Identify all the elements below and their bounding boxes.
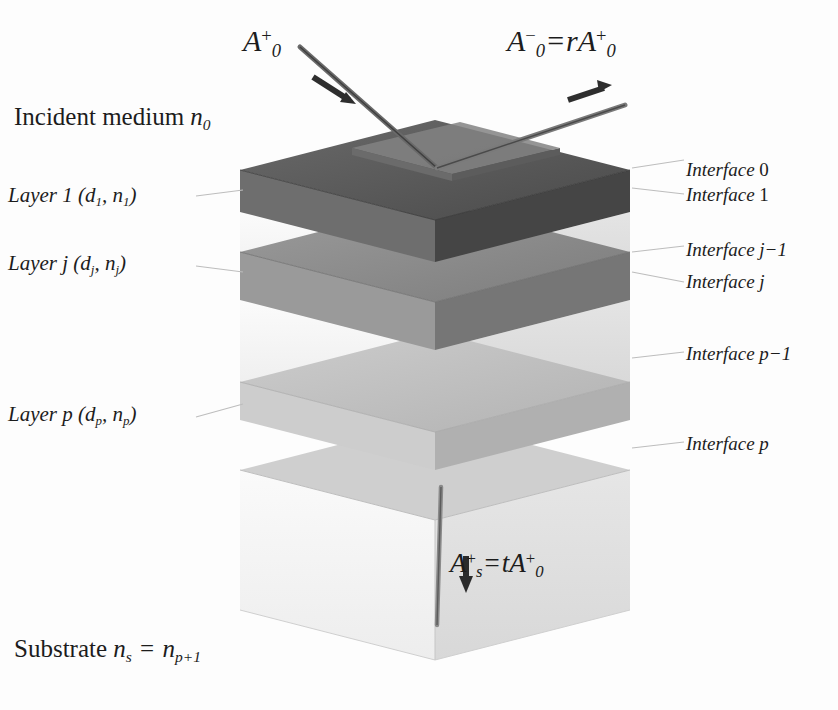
transmitted-rhs-sup: + bbox=[526, 549, 535, 568]
leader-layer-1 bbox=[196, 190, 243, 196]
interface-1-index: 1 bbox=[759, 184, 769, 205]
layer-p-refractive-sub: p bbox=[123, 413, 130, 428]
interface-j-index: j bbox=[759, 271, 764, 292]
interface-p-1-index: p−1 bbox=[759, 343, 791, 364]
layer-j-thickness-sub: j bbox=[91, 262, 95, 277]
leader-interface-j bbox=[632, 272, 684, 282]
reflected-rhs-symbol: A bbox=[578, 24, 596, 57]
transmitted-amplitude-label: A+s=tA+0 bbox=[450, 550, 544, 581]
leader-layer-p bbox=[196, 404, 243, 417]
leader-interface-p bbox=[632, 442, 684, 448]
interface-j-1-label: Interface j−1 bbox=[686, 240, 787, 259]
leader-interface-0 bbox=[632, 160, 684, 168]
incident-amplitude-label: A+0 bbox=[243, 26, 281, 61]
layer-j-refractive-sub: j bbox=[115, 262, 119, 277]
interface-p-label: Interface p bbox=[686, 434, 769, 453]
substrate-equals: = bbox=[138, 635, 156, 662]
leader-layer-j bbox=[196, 266, 243, 272]
figure-canvas: Incident medium n0 Substrate ns = np+1 L… bbox=[0, 0, 838, 710]
interface-p-word: Interface bbox=[686, 433, 755, 454]
layer-j-label: Layer j (dj, nj) bbox=[8, 253, 126, 276]
reflected-direction-arrow-icon bbox=[568, 80, 612, 100]
layer-1-refractive-sub: 1 bbox=[123, 194, 130, 209]
layer-1-thickness-sub: 1 bbox=[96, 194, 103, 209]
layer-p-index: p bbox=[62, 402, 73, 426]
reflected-rhs-sup: + bbox=[596, 25, 607, 46]
substrate-symbol-2: n bbox=[162, 635, 175, 662]
interface-1-label: Interface 1 bbox=[686, 185, 769, 204]
incident-medium-text: Incident medium bbox=[14, 103, 184, 130]
incident-amplitude-sub: 0 bbox=[272, 40, 281, 61]
layer-1-name: Layer bbox=[8, 183, 57, 207]
leader-interface-p-1 bbox=[632, 352, 684, 358]
interface-j-word: Interface bbox=[686, 271, 755, 292]
layer-p-name: Layer bbox=[8, 402, 57, 426]
incident-index-symbol: n bbox=[190, 103, 203, 130]
incident-amplitude-sup: + bbox=[261, 25, 272, 46]
interface-p-index: p bbox=[759, 433, 769, 454]
layer-1-label: Layer 1 (d1, n1) bbox=[8, 185, 137, 208]
layer-p-refractive: n bbox=[113, 402, 124, 426]
reflected-amplitude-symbol: A bbox=[507, 24, 525, 57]
reflected-rhs-sub: 0 bbox=[607, 40, 616, 61]
reflected-amplitude-label: A−0=rA+0 bbox=[507, 26, 616, 61]
layer-1-refractive: n bbox=[113, 183, 124, 207]
layer-j-name: Layer bbox=[8, 251, 57, 275]
incident-medium-label: Incident medium n0 bbox=[14, 104, 211, 132]
layer-1-thickness: d bbox=[85, 183, 96, 207]
substrate-sub-2: p+1 bbox=[175, 648, 201, 665]
transmitted-rhs-sub: 0 bbox=[535, 562, 543, 581]
interface-p-1-word: Interface bbox=[686, 343, 755, 364]
reflected-equals: = bbox=[545, 24, 566, 57]
reflected-amplitude-sub: 0 bbox=[536, 40, 545, 61]
layer-j-index: j bbox=[62, 251, 68, 275]
substrate-symbol: n bbox=[113, 635, 126, 662]
interface-j-label: Interface j bbox=[686, 272, 765, 291]
layer-j-refractive: n bbox=[105, 251, 116, 275]
layer-p-thickness: d bbox=[85, 402, 96, 426]
layer-p-label: Layer p (dp, np) bbox=[8, 404, 137, 427]
interface-j-1-word: Interface bbox=[686, 239, 755, 260]
interface-j-1-index: j−1 bbox=[759, 239, 787, 260]
layer-1-index: 1 bbox=[62, 183, 73, 207]
interface-0-word: Interface bbox=[686, 159, 755, 180]
reflection-coefficient: r bbox=[566, 24, 578, 57]
interface-0-index: 0 bbox=[759, 159, 769, 180]
interface-p-1-label: Interface p−1 bbox=[686, 344, 791, 363]
layer-p-thickness-sub: p bbox=[96, 413, 103, 428]
reflected-amplitude-sup: − bbox=[525, 25, 536, 46]
interface-0-label: Interface 0 bbox=[686, 160, 769, 179]
incident-index-sub: 0 bbox=[203, 116, 211, 133]
interface-1-word: Interface bbox=[686, 184, 755, 205]
transmitted-rhs-symbol: A bbox=[509, 548, 526, 578]
transmitted-equals: = bbox=[482, 548, 501, 578]
incident-amplitude-symbol: A bbox=[243, 24, 261, 57]
substrate-sub: s bbox=[126, 648, 132, 665]
leader-interface-j-1 bbox=[632, 246, 684, 252]
leader-interface-1 bbox=[632, 188, 684, 194]
transmitted-amplitude-sup: + bbox=[467, 549, 476, 568]
layer-j-thickness: d bbox=[80, 251, 91, 275]
substrate-label: Substrate ns = np+1 bbox=[14, 636, 201, 664]
transmitted-amplitude-symbol: A bbox=[450, 548, 467, 578]
substrate-text: Substrate bbox=[14, 635, 107, 662]
